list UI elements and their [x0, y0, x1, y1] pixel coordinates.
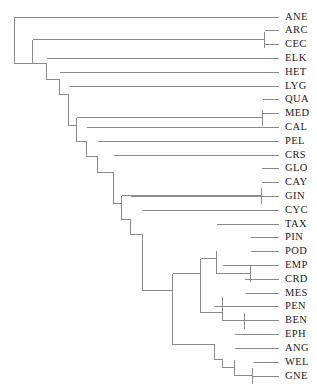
tip-label-CAY: CAY: [285, 177, 307, 188]
tip-label-BEN: BEN: [285, 315, 307, 326]
tip-label-PEN: PEN: [285, 301, 306, 312]
tip-label-GLO: GLO: [285, 163, 308, 174]
tip-label-QUA: QUA: [285, 94, 309, 105]
tip-label-TAX: TAX: [285, 219, 307, 230]
tip-label-CYC: CYC: [285, 205, 308, 216]
tip-label-EMP: EMP: [285, 260, 308, 271]
tip-label-CEC: CEC: [285, 39, 307, 50]
tip-label-CAL: CAL: [285, 122, 307, 133]
tip-label-PIN: PIN: [285, 232, 303, 243]
tip-label-MES: MES: [285, 288, 308, 299]
tip-label-EPH: EPH: [285, 329, 306, 340]
tip-label-WEL: WEL: [285, 357, 309, 368]
tip-label-GNE: GNE: [285, 371, 308, 382]
tip-label-HET: HET: [285, 67, 307, 78]
phylogenetic-tree-figure: ANE ARC CEC ELK HET LYG QUA MED CAL PEL …: [0, 0, 317, 387]
tip-label-MED: MED: [285, 108, 310, 119]
tip-label-ANG: ANG: [285, 343, 309, 354]
tip-label-PEL: PEL: [285, 136, 305, 147]
tree-branch-group: [15, 17, 279, 384]
tip-label-ELK: ELK: [285, 53, 307, 64]
tree-branches-canvas: [0, 0, 317, 387]
tip-label-POD: POD: [285, 246, 307, 257]
tip-label-ARC: ARC: [285, 25, 308, 36]
tip-label-CRS: CRS: [285, 150, 306, 161]
tip-label-CRD: CRD: [285, 274, 308, 285]
tip-label-LYG: LYG: [285, 81, 307, 92]
tip-label-GIN: GIN: [285, 191, 305, 202]
tip-label-ANE: ANE: [285, 12, 308, 23]
